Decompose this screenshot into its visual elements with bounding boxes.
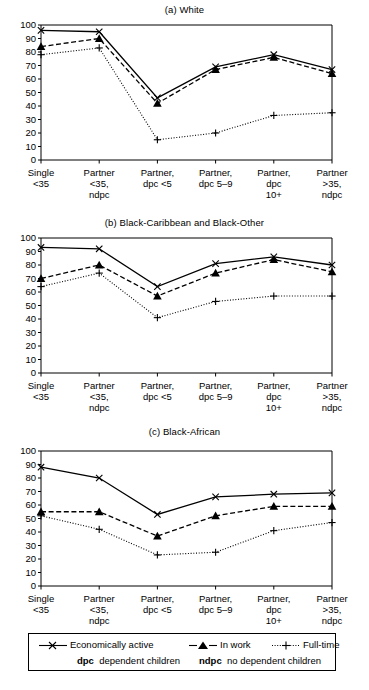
plus-marker-icon [272, 640, 300, 651]
legend-note-ndpc: ndpc no dependent children [199, 653, 321, 669]
svg-text:Partner: Partner [316, 380, 347, 391]
svg-text:10: 10 [25, 141, 36, 152]
svg-text:90: 90 [25, 33, 36, 44]
svg-text:40: 40 [25, 100, 36, 111]
legend-note-dpc-abbr: dpc [77, 655, 94, 666]
svg-text:Partner,: Partner, [199, 593, 232, 604]
svg-text:<35,: <35, [90, 178, 109, 189]
svg-text:20: 20 [25, 127, 36, 138]
svg-text:Partner,: Partner, [257, 380, 290, 391]
svg-text:ndpc: ndpc [89, 402, 110, 413]
legend-note-dpc: dpc dependent children [77, 653, 180, 669]
svg-text:60: 60 [25, 286, 36, 297]
svg-text:Partner: Partner [84, 593, 115, 604]
svg-text:0: 0 [31, 154, 36, 165]
svg-text:<35,: <35, [90, 604, 109, 615]
line-chart-black-caribbean-other: 0102030405060708090100Single<35Partner<3… [0, 213, 369, 423]
svg-text:100: 100 [20, 232, 36, 243]
svg-text:80: 80 [25, 259, 36, 270]
svg-text:Partner: Partner [316, 167, 347, 178]
svg-text:40: 40 [25, 313, 36, 324]
svg-text:40: 40 [25, 526, 36, 537]
svg-text:70: 70 [25, 486, 36, 497]
svg-text:30: 30 [25, 327, 36, 338]
svg-text:70: 70 [25, 60, 36, 71]
svg-text:>35,: >35, [323, 391, 342, 402]
svg-text:60: 60 [25, 499, 36, 510]
legend-label-full-time: Full-time [303, 639, 339, 650]
legend-item-economically-active: Economically active [39, 636, 153, 653]
line-chart-white: 0102030405060708090100Single<35Partner<3… [0, 0, 369, 210]
legend-label-economically-active: Economically active [70, 639, 153, 650]
svg-text:Partner,: Partner, [257, 593, 290, 604]
legend-note-dpc-text: dependent children [99, 655, 180, 666]
svg-text:50: 50 [25, 513, 36, 524]
svg-text:Partner,: Partner, [257, 167, 290, 178]
svg-text:10+: 10+ [266, 402, 283, 413]
svg-text:30: 30 [25, 540, 36, 551]
svg-text:dpc: dpc [266, 178, 282, 189]
svg-text:dpc <5: dpc <5 [143, 178, 172, 189]
svg-text:30: 30 [25, 114, 36, 125]
svg-text:10+: 10+ [266, 189, 283, 200]
svg-text:10+: 10+ [266, 615, 283, 626]
svg-text:10: 10 [25, 354, 36, 365]
svg-text:ndpc: ndpc [322, 189, 343, 200]
svg-text:90: 90 [25, 459, 36, 470]
svg-text:dpc 5–9: dpc 5–9 [199, 391, 233, 402]
svg-text:Partner: Partner [84, 380, 115, 391]
line-chart-black-african: 0102030405060708090100Single<35Partner<3… [0, 426, 369, 636]
svg-text:<35: <35 [33, 604, 49, 615]
svg-text:100: 100 [20, 445, 36, 456]
svg-text:dpc: dpc [266, 391, 282, 402]
svg-text:<35: <35 [33, 391, 49, 402]
svg-text:Single: Single [28, 167, 54, 178]
svg-text:Partner,: Partner, [199, 380, 232, 391]
chart-legend: Economically active In work Full-time dp [28, 633, 336, 671]
svg-text:90: 90 [25, 246, 36, 257]
svg-text:Partner,: Partner, [199, 167, 232, 178]
chart-panel-black-caribbean-other: (b) Black-Caribbean and Black-Other 0102… [0, 213, 369, 423]
legend-note-ndpc-text: no dependent children [227, 655, 321, 666]
svg-text:<35: <35 [33, 178, 49, 189]
svg-text:20: 20 [25, 340, 36, 351]
svg-text:Partner,: Partner, [141, 380, 174, 391]
svg-text:10: 10 [25, 567, 36, 578]
legend-label-in-work: In work [220, 639, 251, 650]
svg-text:>35,: >35, [323, 178, 342, 189]
svg-text:80: 80 [25, 472, 36, 483]
svg-text:Partner: Partner [316, 593, 347, 604]
legend-item-full-time: Full-time [272, 636, 339, 653]
svg-text:20: 20 [25, 553, 36, 564]
svg-text:70: 70 [25, 273, 36, 284]
svg-text:0: 0 [31, 367, 36, 378]
svg-text:<35,: <35, [90, 391, 109, 402]
svg-text:Partner: Partner [84, 167, 115, 178]
svg-text:Partner,: Partner, [141, 167, 174, 178]
legend-note-ndpc-abbr: ndpc [199, 655, 222, 666]
svg-text:80: 80 [25, 46, 36, 57]
triangle-marker-icon [189, 640, 217, 651]
svg-text:ndpc: ndpc [89, 615, 110, 626]
legend-notes-row: dpc dependent children ndpc no dependent… [29, 653, 335, 670]
svg-text:100: 100 [20, 19, 36, 30]
svg-text:Single: Single [28, 593, 54, 604]
svg-text:dpc 5–9: dpc 5–9 [199, 604, 233, 615]
svg-text:ndpc: ndpc [322, 402, 343, 413]
chart-panel-white: (a) White 0102030405060708090100Single<3… [0, 0, 369, 210]
svg-text:Single: Single [28, 380, 54, 391]
svg-text:ndpc: ndpc [322, 615, 343, 626]
legend-item-in-work: In work [189, 636, 251, 653]
svg-text:50: 50 [25, 300, 36, 311]
svg-text:60: 60 [25, 73, 36, 84]
chart-panel-black-african: (c) Black-African 0102030405060708090100… [0, 426, 369, 636]
svg-text:dpc 5–9: dpc 5–9 [199, 178, 233, 189]
figure-panel-group: (a) White 0102030405060708090100Single<3… [0, 0, 369, 690]
svg-text:50: 50 [25, 87, 36, 98]
svg-text:0: 0 [31, 580, 36, 591]
svg-text:dpc <5: dpc <5 [143, 604, 172, 615]
svg-text:>35,: >35, [323, 604, 342, 615]
svg-text:Partner,: Partner, [141, 593, 174, 604]
legend-series-row: Economically active In work Full-time [29, 636, 335, 653]
svg-text:dpc <5: dpc <5 [143, 391, 172, 402]
